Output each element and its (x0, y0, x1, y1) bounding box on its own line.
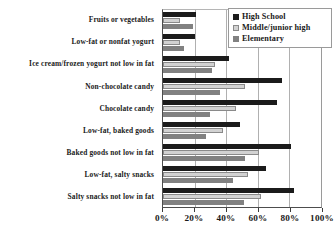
x-tick-mark (290, 208, 291, 212)
x-tick-mark (258, 208, 259, 212)
bar (163, 106, 236, 111)
bar (163, 200, 244, 205)
bar (163, 68, 212, 73)
bar (163, 134, 206, 139)
bar (163, 46, 184, 51)
bar (163, 12, 196, 17)
bar (163, 84, 245, 89)
category-label: Salty snacks not low in fat (0, 186, 158, 208)
bar (163, 24, 193, 29)
bar (163, 18, 180, 23)
bar (163, 100, 277, 105)
x-tick-label: 40% (217, 213, 236, 223)
bar (163, 156, 245, 161)
category-label: Non-chocolate candy (0, 75, 158, 97)
category-label: Baked goods not low in fat (0, 142, 158, 164)
legend-swatch-icon (233, 36, 239, 42)
x-tick-mark (226, 208, 227, 212)
legend-label: Middle/junior high (242, 23, 310, 32)
x-tick-mark (194, 208, 195, 212)
bar (163, 62, 215, 67)
legend-label: Elementary (242, 34, 284, 43)
legend-swatch-icon (233, 14, 239, 20)
x-tick-label: 20% (185, 213, 204, 223)
bar (163, 194, 261, 199)
x-tick-mark (322, 208, 323, 212)
x-tick-label: 0% (155, 213, 169, 223)
category-label: Low-fat, baked goods (0, 120, 158, 142)
x-tick-label: 60% (249, 213, 268, 223)
bar-group (163, 54, 321, 76)
bar (163, 128, 223, 133)
legend-item[interactable]: High School (233, 11, 327, 22)
bar (163, 150, 259, 155)
category-label: Low-fat or nonfat yogurt (0, 31, 158, 53)
bar (163, 172, 248, 177)
bar (163, 166, 266, 171)
bar (163, 78, 282, 83)
bar-group (163, 185, 321, 207)
legend-label: High School (242, 12, 286, 21)
bar-group (163, 163, 321, 185)
bar-group (163, 98, 321, 120)
bar-chart: Fruits or vegetablesLow-fat or nonfat yo… (0, 0, 336, 245)
category-label: Low-fat, salty snacks (0, 164, 158, 186)
x-axis-tick-labels: 0%20%40%60%80%100% (162, 213, 322, 231)
bar-group (163, 119, 321, 141)
x-tick-label: 80% (281, 213, 300, 223)
bar (163, 112, 210, 117)
category-label: Fruits or vegetables (0, 9, 158, 31)
bar (163, 188, 294, 193)
bar (163, 34, 195, 39)
bar (163, 40, 180, 45)
bar-group (163, 141, 321, 163)
category-axis-labels: Fruits or vegetablesLow-fat or nonfat yo… (0, 9, 158, 208)
x-tick-mark (162, 208, 163, 212)
bar (163, 56, 229, 61)
bar-group (163, 76, 321, 98)
category-label: Ice cream/frozen yogurt not low in fat (0, 53, 158, 75)
legend-item[interactable]: Elementary (233, 33, 327, 44)
bar (163, 90, 220, 95)
bar (163, 178, 233, 183)
bar (163, 144, 291, 149)
legend-swatch-icon (233, 25, 239, 31)
bar (163, 122, 240, 127)
category-label: Chocolate candy (0, 97, 158, 119)
x-tick-label: 100% (310, 213, 334, 223)
chart-legend: High SchoolMiddle/junior highElementary (228, 8, 332, 48)
legend-item[interactable]: Middle/junior high (233, 22, 327, 33)
